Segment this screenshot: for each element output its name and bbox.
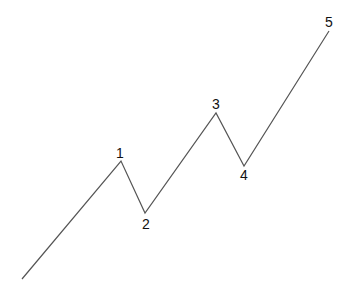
wave-label-3: 3: [212, 97, 220, 111]
wave-label-1: 1: [116, 146, 124, 160]
wave-label-4: 4: [240, 168, 248, 182]
elliott-wave-diagram: 1 2 3 4 5: [0, 0, 354, 296]
wave-polyline: [22, 31, 329, 279]
wave-label-2: 2: [142, 217, 150, 231]
wave-line-svg: [0, 0, 354, 296]
wave-label-5: 5: [325, 15, 333, 29]
